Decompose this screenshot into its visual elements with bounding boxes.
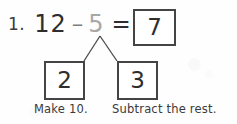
equals-sign-icon: = [112,13,131,36]
minus-sign-icon: – [72,13,84,36]
equation-row: 1. 12 – 5 = [8,9,137,39]
subtrahend-value: 5 [88,12,104,36]
bond-part-left-box[interactable]: 2 [44,61,85,100]
answer-box[interactable]: 7 [133,9,176,46]
caption-subtract-rest: Subtract the rest. [112,104,217,116]
worksheet-problem: 1. 12 – 5 = 7 2 3 Make 10. Subtract the … [0,0,237,124]
bond-branch-right-line [100,36,117,61]
bond-branch-left-line [84,36,100,61]
problem-item-number: 1. [8,16,25,33]
minuend-value: 12 [34,12,67,36]
caption-make-ten: Make 10. [34,104,88,116]
bond-part-right-box[interactable]: 3 [117,61,158,100]
